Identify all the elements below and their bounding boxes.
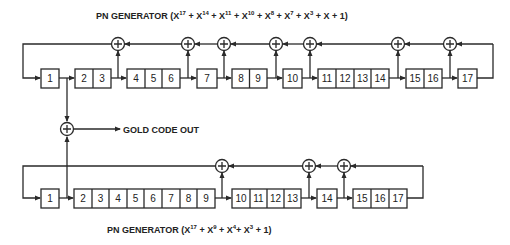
stage-label: 4: [133, 73, 139, 84]
stage-label: 3: [99, 73, 105, 84]
bottom-generator-title: PN GENERATOR (X17 + X9 + X4+ X3 + 1): [107, 224, 271, 235]
xor-icon: [270, 38, 283, 51]
stage-label: 1: [47, 193, 53, 204]
stage-label: 9: [203, 193, 209, 204]
stage-label: 9: [255, 73, 261, 84]
stage-label: 15: [409, 73, 421, 84]
gold-code-combiner: GOLD CODE OUT: [61, 78, 200, 198]
stage-label: 12: [270, 193, 282, 204]
stage-label: 11: [253, 193, 264, 204]
xor-icon: [392, 38, 405, 51]
top-feedback-right: [477, 44, 493, 78]
stage-label: 14: [321, 193, 333, 204]
xor-icon: [444, 38, 457, 51]
stage-label: 10: [287, 73, 299, 84]
stage-label: 12: [339, 73, 351, 84]
top-pn-generator: 1 2 3 4 5 6 7 8 9 10: [23, 38, 493, 89]
stage-label: 10: [235, 193, 247, 204]
stage-label: 17: [462, 73, 474, 84]
stage-label: 14: [374, 73, 386, 84]
stage-label: 13: [287, 193, 299, 204]
top-generator-title: PN GENERATOR (X17 + X14 + X11 + X10 + X8…: [96, 10, 348, 21]
stage-label: 15: [356, 193, 368, 204]
xor-icon: [338, 160, 351, 173]
xor-icon: [218, 38, 231, 51]
stage-label: 2: [81, 73, 87, 84]
stage-label: 2: [80, 193, 86, 204]
stage-label: 7: [204, 73, 210, 84]
stage-label: 1: [47, 73, 53, 84]
stage-label: 5: [133, 193, 139, 204]
xor-icon: [61, 123, 74, 136]
stage-label: 4: [115, 193, 121, 204]
bottom-pn-generator: 1 2 3 4 5 6 7 8 9 10 11 12 13: [23, 160, 423, 209]
stage-label: 13: [357, 73, 369, 84]
stage-label: 8: [238, 73, 244, 84]
bottom-feedback-right: [407, 166, 423, 198]
stage-label: 11: [322, 73, 333, 84]
stage-label: 5: [151, 73, 157, 84]
stage-label: 8: [186, 193, 192, 204]
xor-icon: [304, 38, 317, 51]
stage-label: 6: [168, 73, 174, 84]
xor-icon: [112, 38, 125, 51]
stage-label: 3: [98, 193, 104, 204]
stage-label: 16: [374, 193, 386, 204]
xor-icon: [182, 38, 195, 51]
stage-label: 16: [427, 73, 439, 84]
xor-icon: [216, 160, 229, 173]
stage-label: 17: [392, 193, 404, 204]
stage-label: 7: [168, 193, 174, 204]
top-register-stages: 1 2 3 4 5 6 7 8 9 10: [41, 69, 477, 88]
stage-label: 6: [150, 193, 156, 204]
xor-icon: [303, 160, 316, 173]
gold-code-out-label: GOLD CODE OUT: [123, 125, 200, 135]
gold-code-generator-diagram: PN GENERATOR (X17 + X14 + X11 + X10 + X8…: [0, 0, 510, 245]
